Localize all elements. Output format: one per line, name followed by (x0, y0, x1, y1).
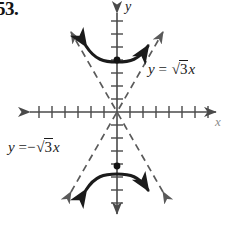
asymptote-label-upper-right: y = √3x (148, 60, 195, 78)
label-upper-lhs: y (148, 61, 155, 77)
label-lower-equals: = (18, 139, 26, 155)
hyperbola-figure (0, 0, 226, 226)
label-upper-equals: = (158, 61, 166, 77)
label-lower-radical-sign: √ (35, 139, 44, 156)
label-upper-radicand: 3 (179, 60, 189, 78)
y-axis-label: y (125, 0, 131, 15)
problem-number: 53. (0, 0, 18, 20)
label-lower-minus-sign: − (27, 139, 35, 155)
vertex-point-lower (114, 163, 121, 170)
label-upper-variable: x (188, 61, 195, 77)
label-lower-radicand: 3 (44, 138, 54, 156)
vertex-point-upper (114, 57, 121, 64)
label-lower-lhs: y (8, 139, 15, 155)
label-upper-radical-sign: √ (171, 61, 180, 78)
asymptote-label-lower-left: y =−√3x (8, 138, 60, 156)
label-lower-variable: x (53, 139, 60, 155)
x-axis-label: x (215, 114, 221, 130)
